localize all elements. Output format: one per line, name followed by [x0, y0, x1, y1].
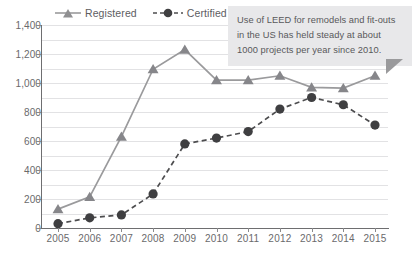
data-point-certified-2011[interactable] [244, 127, 253, 136]
x-tick-mark [375, 228, 376, 232]
data-point-certified-2012[interactable] [275, 105, 284, 114]
x-tick-mark [343, 228, 344, 232]
data-point-registered-2006[interactable] [84, 192, 95, 201]
data-point-certified-2007[interactable] [117, 210, 126, 219]
data-point-certified-2013[interactable] [307, 93, 316, 102]
x-tick-mark [248, 228, 249, 232]
data-point-registered-2007[interactable] [116, 131, 127, 140]
data-point-certified-2006[interactable] [85, 213, 94, 222]
data-point-registered-2015[interactable] [370, 71, 381, 80]
callout-line-3: 1000 projects per year since 2010. [237, 43, 403, 58]
data-point-certified-2008[interactable] [149, 189, 158, 198]
x-tick-mark [185, 228, 186, 232]
callout-box: Use of LEED for remodels and fit-outs in… [228, 6, 412, 66]
x-tick-mark [217, 228, 218, 232]
x-tick-mark [58, 228, 59, 232]
data-point-registered-2005[interactable] [53, 204, 64, 213]
data-point-certified-2010[interactable] [212, 134, 221, 143]
x-tick-mark [312, 228, 313, 232]
data-point-certified-2009[interactable] [180, 139, 189, 148]
data-point-certified-2005[interactable] [53, 219, 62, 228]
data-point-certified-2015[interactable] [370, 120, 379, 129]
callout-tail-icon [386, 59, 403, 74]
callout-line-1: Use of LEED for remodels and fit-outs [237, 13, 403, 28]
data-point-certified-2014[interactable] [339, 100, 348, 109]
leed-projects-line-chart: Registered Certified 02004006008001,0001… [0, 0, 419, 257]
data-point-registered-2009[interactable] [179, 44, 190, 53]
x-tick-mark [153, 228, 154, 232]
data-point-registered-2008[interactable] [148, 64, 159, 73]
series-line-certified [58, 98, 375, 224]
series-line-registered [58, 50, 375, 210]
x-tick-mark [121, 228, 122, 232]
x-tick-mark [90, 228, 91, 232]
x-tick-mark [280, 228, 281, 232]
data-point-registered-2012[interactable] [274, 71, 285, 80]
callout-line-2: in the US has held steady at about [237, 28, 403, 43]
